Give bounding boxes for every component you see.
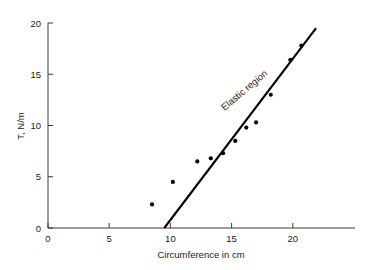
data-point: [209, 156, 213, 160]
scatter-plot-canvas: 05101520 05101520 Circumference in cm T,…: [0, 0, 379, 270]
x-tick-label: 15: [226, 233, 237, 244]
data-points: [150, 43, 304, 206]
data-point: [299, 43, 303, 47]
y-tick-label: 10: [30, 120, 41, 131]
y-axis-tick-labels: 05101520: [30, 18, 41, 234]
elastic-region-fit-line: [164, 28, 316, 228]
x-tick-label: 10: [165, 233, 176, 244]
data-point: [244, 125, 248, 129]
data-point: [233, 139, 237, 143]
x-axis-ticks: [48, 223, 293, 228]
elastic-region-annotation: Elastic region: [219, 67, 270, 112]
y-tick-label: 5: [36, 171, 41, 182]
data-point: [171, 180, 175, 184]
data-point: [269, 93, 273, 97]
x-axis-tick-labels: 05101520: [45, 233, 298, 244]
y-tick-label: 15: [30, 69, 41, 80]
y-tick-label: 20: [30, 18, 41, 29]
data-point: [221, 151, 225, 155]
y-axis-ticks: [48, 23, 53, 228]
data-point: [195, 159, 199, 163]
x-tick-label: 5: [107, 233, 112, 244]
x-axis-title: Circumference in cm: [157, 249, 244, 260]
data-point: [288, 58, 292, 62]
y-tick-label: 0: [36, 223, 41, 234]
y-axis-title: T, N/m: [15, 112, 26, 140]
x-tick-label: 20: [288, 233, 299, 244]
axes: [48, 23, 355, 228]
data-point: [254, 120, 258, 124]
chart-figure: 05101520 05101520 Circumference in cm T,…: [0, 0, 379, 270]
x-tick-label: 0: [45, 233, 50, 244]
data-point: [150, 202, 154, 206]
